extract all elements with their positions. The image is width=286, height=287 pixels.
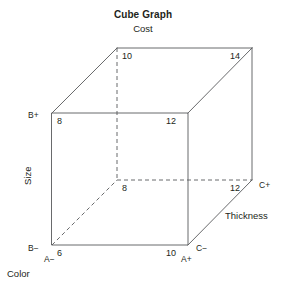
vertex-value-front-top-left: 8 [57, 116, 62, 126]
level-label-size-high: B+ [28, 110, 39, 120]
axis-label-thickness: Thickness [225, 211, 268, 221]
bottom-left-connector-hidden-edge [52, 180, 117, 245]
vertex-value-front-top-right: 12 [166, 116, 176, 126]
top-right-connector-edge [188, 48, 252, 113]
level-label-thickness-high: C+ [259, 180, 270, 190]
level-label-size-low: B− [28, 243, 39, 253]
vertex-value-front-bottom-right: 10 [166, 248, 176, 258]
axis-label-size: Size [22, 167, 33, 185]
level-label-thickness-low: C− [196, 243, 207, 253]
cube-wireframe [0, 0, 286, 287]
level-label-color-high: A+ [181, 254, 192, 264]
vertex-value-back-bottom-right: 12 [230, 183, 240, 193]
vertex-value-back-top-left: 10 [122, 51, 132, 61]
level-label-color-low: A− [44, 254, 55, 264]
vertex-value-back-top-right: 14 [230, 51, 240, 61]
cube-graph-figure: Cube Graph Cost 8 12 10 14 6 10 8 12 B+ … [0, 0, 286, 287]
top-left-connector-edge [52, 48, 117, 113]
vertex-value-front-bottom-left: 6 [57, 248, 62, 258]
vertex-value-back-bottom-left: 8 [122, 183, 127, 193]
axis-label-color: Color [7, 269, 30, 279]
